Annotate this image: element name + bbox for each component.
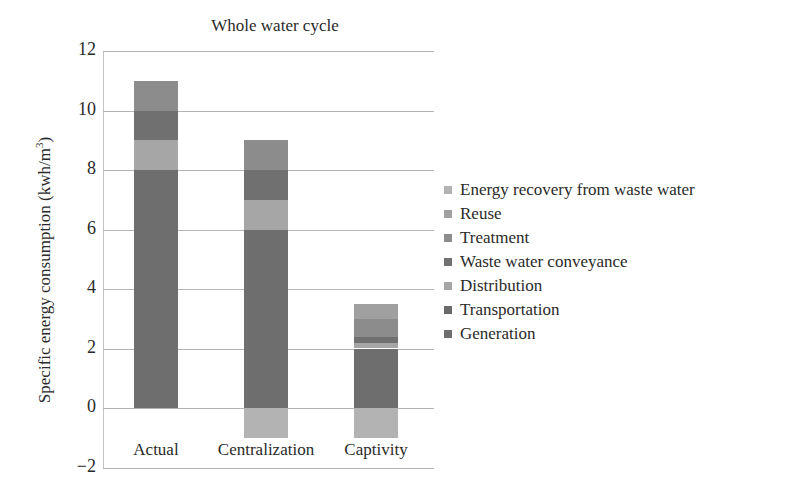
y-tick-label: 8 <box>56 158 96 179</box>
bar-segment-generation <box>244 230 288 409</box>
bar-segment-treatment <box>134 81 178 111</box>
y-axis-label-close: ) <box>35 137 54 143</box>
bar-segment-generation <box>354 349 398 409</box>
legend-label: Energy recovery from waste water <box>460 180 695 200</box>
legend-swatch-icon <box>444 258 452 266</box>
bar-segment-treatment <box>354 319 398 337</box>
bar-segment-distribution <box>244 200 288 230</box>
y-tick-label: 12 <box>56 39 96 60</box>
chart-area: Whole water cycle Specific energy consum… <box>0 0 796 498</box>
legend-swatch-icon <box>444 282 452 290</box>
y-tick-label: 2 <box>56 337 96 358</box>
legend-label: Generation <box>460 324 536 344</box>
gridline <box>103 51 434 52</box>
legend-label: Transportation <box>460 300 560 320</box>
y-tick-label: 6 <box>56 218 96 239</box>
y-tick-label: 10 <box>56 99 96 120</box>
legend-swatch-icon <box>444 330 452 338</box>
bar-segment-generation <box>134 170 178 408</box>
bar-segment-waste-water-conveyance <box>244 170 288 200</box>
legend-item: Generation <box>444 322 695 346</box>
x-tick-label: Actual <box>96 440 216 460</box>
y-tick-label: 4 <box>56 277 96 298</box>
legend-item: Transportation <box>444 298 695 322</box>
legend-item: Waste water conveyance <box>444 250 695 274</box>
bar-segment-treatment <box>244 140 288 170</box>
legend-label: Treatment <box>460 228 529 248</box>
y-axis-label-sup: 3 <box>33 143 45 149</box>
y-tick-label: −2 <box>56 456 96 477</box>
bar-segment-reuse <box>354 304 398 319</box>
bar-segment-waste-water-conveyance <box>354 337 398 343</box>
legend-item: Distribution <box>444 274 695 298</box>
bar-segment-distribution <box>134 140 178 170</box>
bar-segment-distribution <box>354 343 398 349</box>
x-tick-label: Captivity <box>316 440 436 460</box>
legend-label: Distribution <box>460 276 542 296</box>
legend-item: Energy recovery from waste water <box>444 178 695 202</box>
bar-segment-waste-water-conveyance <box>134 111 178 141</box>
bar-segment-energy-recovery-from-waste-water <box>244 408 288 438</box>
legend-item: Reuse <box>444 202 695 226</box>
legend-item: Treatment <box>444 226 695 250</box>
gridline <box>103 468 434 469</box>
legend-swatch-icon <box>444 306 452 314</box>
legend-swatch-icon <box>444 210 452 218</box>
chart-title: Whole water cycle <box>150 16 400 36</box>
y-axis-label: Specific energy consumption (kwh/m3) <box>33 80 55 460</box>
legend-label: Waste water conveyance <box>460 252 628 272</box>
legend-swatch-icon <box>444 186 452 194</box>
bar-segment-energy-recovery-from-waste-water <box>354 408 398 438</box>
y-axis-label-main: Specific energy consumption (kwh/m <box>35 148 54 403</box>
legend: Energy recovery from waste waterReuseTre… <box>444 178 695 346</box>
y-tick-label: 0 <box>56 396 96 417</box>
y-axis-line <box>103 51 104 468</box>
legend-label: Reuse <box>460 204 502 224</box>
legend-swatch-icon <box>444 234 452 242</box>
x-tick-label: Centralization <box>206 440 326 460</box>
